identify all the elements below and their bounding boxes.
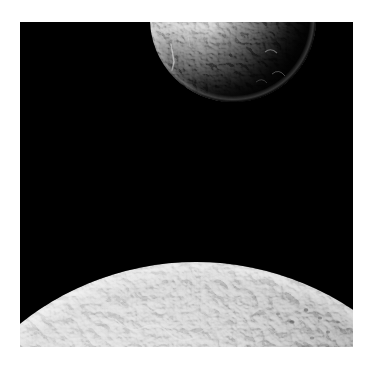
screenshot-root	[0, 0, 371, 366]
photo-frame	[20, 22, 353, 347]
astronomical-scene	[20, 22, 353, 347]
